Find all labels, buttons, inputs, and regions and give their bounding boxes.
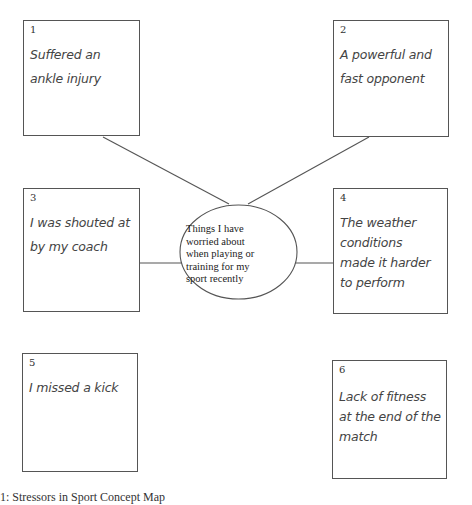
node-line: at the end of the	[339, 407, 442, 427]
node-line: fast opponent	[340, 67, 444, 91]
node-number: 3	[30, 192, 36, 203]
node-text: I missed a kick	[29, 376, 133, 400]
node-text: A powerful and fast opponent	[340, 43, 444, 91]
center-node-text: Things I have worried about when playing…	[186, 223, 298, 286]
center-line: worried about	[186, 236, 298, 249]
node-line: to perform	[340, 273, 443, 293]
node-text: The weather conditions made it harder to…	[340, 213, 443, 293]
node-number: 2	[340, 24, 346, 35]
center-line: when playing or	[186, 248, 298, 261]
node-line: Suffered an	[30, 43, 135, 67]
center-line: training for my	[186, 261, 298, 274]
center-line: sport recently	[186, 273, 298, 286]
node-box-1: 1 Suffered an ankle injury	[23, 20, 140, 136]
node-box-5: 5 I missed a kick	[22, 353, 138, 472]
node-number: 5	[29, 357, 35, 368]
node-number: 1	[30, 24, 36, 35]
node-number: 6	[339, 364, 345, 375]
node-line: The weather	[340, 213, 443, 233]
center-line: Things I have	[186, 223, 298, 236]
node-line: Lack of fitness	[339, 387, 442, 407]
node-box-6: 6 Lack of fitness at the end of the matc…	[332, 360, 447, 479]
node-line: ankle injury	[30, 67, 135, 91]
node-box-3: 3 I was shouted at by my coach	[23, 188, 140, 312]
node-text: I was shouted at by my coach	[30, 211, 135, 259]
node-line: match	[339, 427, 442, 447]
node-number: 4	[340, 192, 346, 203]
node-line: made it harder	[340, 253, 443, 273]
node-line: I was shouted at	[30, 211, 135, 235]
node-text: Lack of fitness at the end of the match	[339, 387, 442, 447]
node-line: I missed a kick	[29, 376, 133, 400]
node-box-4: 4 The weather conditions made it harder …	[333, 188, 448, 314]
node-box-2: 2 A powerful and fast opponent	[333, 20, 449, 137]
node-text: Suffered an ankle injury	[30, 43, 135, 91]
figure-caption: 1: Stressors in Sport Concept Map	[0, 490, 165, 505]
node-line: conditions	[340, 233, 443, 253]
node-line: by my coach	[30, 235, 135, 259]
node-line: A powerful and	[340, 43, 444, 67]
